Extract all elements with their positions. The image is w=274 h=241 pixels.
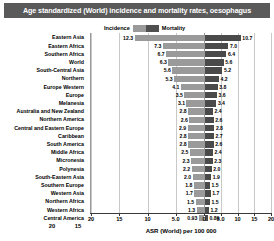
value-label-incidence: 2.0 xyxy=(184,174,191,181)
value-label-incidence: 3.5 xyxy=(176,92,183,99)
plot-area: 12.310.77.37.06.76.46.35.65.65.25.34.24.… xyxy=(90,33,272,213)
bar-incidence xyxy=(163,43,204,49)
bar-incidence xyxy=(168,59,204,65)
bar-incidence xyxy=(174,76,204,82)
value-label-mortality: 6.4 xyxy=(228,51,235,58)
chart-row: 12.310.7 xyxy=(90,34,272,42)
axis-tick-label: 20 xyxy=(81,216,101,223)
bar-mortality xyxy=(205,133,214,139)
category-label: Caribbean xyxy=(58,132,84,140)
bar-mortality xyxy=(205,125,214,131)
bar-mortality xyxy=(205,84,218,90)
bar-mortality xyxy=(205,51,226,57)
chart-row: 4.13.8 xyxy=(90,83,272,91)
category-label: Western Africa xyxy=(47,206,84,214)
value-label-mortality: 1.5 xyxy=(212,182,219,189)
bar-mortality xyxy=(205,199,210,205)
chart-row: 1.51.5 xyxy=(90,198,272,206)
value-label-mortality: 7.0 xyxy=(230,43,237,50)
bar-incidence xyxy=(188,108,204,114)
bar-incidence xyxy=(188,141,204,147)
bar-incidence xyxy=(184,92,204,98)
category-label: Western Asia xyxy=(51,189,84,197)
bar-mortality xyxy=(205,141,214,147)
category-label: Eastern Africa xyxy=(48,42,84,50)
axis-tick-label: 5.0 xyxy=(166,216,186,223)
value-label-incidence: 1.8 xyxy=(185,182,192,189)
bar-mortality xyxy=(205,166,212,172)
legend-swatch xyxy=(133,25,159,32)
value-label-mortality: 2.0 xyxy=(213,166,220,173)
value-label-incidence: 1.5 xyxy=(187,199,194,206)
category-label: Southern Europe xyxy=(41,181,84,189)
chart-row: 6.76.4 xyxy=(90,50,272,58)
value-label-mortality: 4.2 xyxy=(221,76,228,83)
bar-incidence xyxy=(193,174,204,180)
value-label-mortality: 3.8 xyxy=(219,84,226,91)
value-label-mortality: 2.3 xyxy=(214,158,221,165)
axis-tick-label: 15 xyxy=(109,216,129,223)
value-label-mortality: 3.6 xyxy=(219,92,226,99)
value-label-incidence: 2.3 xyxy=(182,158,189,165)
bar-mortality xyxy=(205,59,224,65)
value-label-mortality: 1.7 xyxy=(212,190,219,197)
value-label-mortality: 5.2 xyxy=(224,67,231,74)
bar-mortality xyxy=(205,108,213,114)
value-label-incidence: 3.1 xyxy=(178,100,185,107)
axis-extra-label: 20 xyxy=(42,223,62,230)
value-label-mortality: 2.6 xyxy=(215,141,222,148)
chart-row: 2.32.3 xyxy=(90,157,272,165)
chart-row: 3.13.4 xyxy=(90,100,272,108)
value-label-incidence: 1.7 xyxy=(186,190,193,197)
value-label-incidence: 2.8 xyxy=(180,108,187,115)
axis-extra-label: 15 xyxy=(68,223,88,230)
value-label-incidence: 6.3 xyxy=(160,59,167,66)
bar-incidence xyxy=(191,158,204,164)
axis-tick-label: 20 xyxy=(261,216,274,223)
value-label-mortality: 1.9 xyxy=(213,174,220,181)
category-label: Middle Africa xyxy=(51,148,84,156)
bar-incidence xyxy=(188,125,204,131)
value-label-mortality: 5.6 xyxy=(225,59,232,66)
category-label: Eastern Asia xyxy=(52,33,84,41)
chart-container: Age standardized (World) incidence and m… xyxy=(0,0,274,241)
category-label: Central America xyxy=(44,214,84,222)
bar-mortality xyxy=(205,174,211,180)
value-label-incidence: 2.2 xyxy=(183,166,190,173)
value-label-mortality: 10.7 xyxy=(242,35,252,42)
chart-row: 5.65.2 xyxy=(90,67,272,75)
value-label-incidence: 7.3 xyxy=(154,43,161,50)
value-label-incidence: 5.6 xyxy=(164,67,171,74)
category-label: Europe xyxy=(66,91,84,99)
legend-label-incidence: Incidence xyxy=(104,26,130,32)
chart-row: 3.53.6 xyxy=(90,91,272,99)
bar-mortality xyxy=(205,117,214,123)
bar-mortality xyxy=(205,92,217,98)
value-label-incidence: 2.6 xyxy=(181,117,188,124)
bar-incidence xyxy=(188,133,204,139)
value-label-incidence: 12.3 xyxy=(123,35,133,42)
bar-mortality xyxy=(205,43,228,49)
category-label: Southern Africa xyxy=(44,50,84,58)
bar-incidence xyxy=(186,100,204,106)
chart-row: 5.34.2 xyxy=(90,75,272,83)
value-label-mortality: 1.5 xyxy=(212,199,219,206)
chart-row: 2.52.4 xyxy=(90,149,272,157)
value-label-mortality: 2.4 xyxy=(215,149,222,156)
category-label: Europe Western xyxy=(43,83,84,91)
legend-swatch-incidence xyxy=(133,25,146,32)
value-label-mortality: 2.7 xyxy=(216,133,223,140)
x-axis-line xyxy=(90,213,272,214)
chart-row: 2.62.6 xyxy=(90,116,272,124)
value-label-incidence: 5.3 xyxy=(165,76,172,83)
chart-row: 1.71.7 xyxy=(90,190,272,198)
value-label-incidence: 2.9 xyxy=(179,125,186,132)
bar-mortality xyxy=(205,190,211,196)
category-label: World xyxy=(69,58,84,66)
bar-mortality xyxy=(205,149,213,155)
bar-incidence xyxy=(196,199,204,205)
value-label-incidence: 4.1 xyxy=(172,84,179,91)
bar-incidence xyxy=(189,117,204,123)
value-label-mortality: 2.4 xyxy=(215,108,222,115)
bar-incidence xyxy=(192,166,204,172)
